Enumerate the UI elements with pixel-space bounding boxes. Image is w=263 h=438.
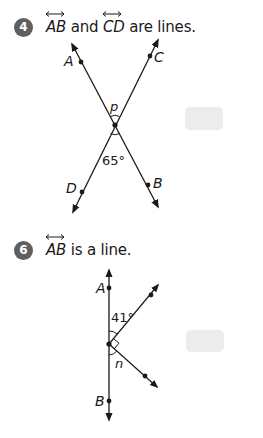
angle-n-arc	[109, 351, 117, 355]
lower-ray-dot	[143, 374, 148, 379]
angle-n-label: n	[115, 356, 123, 371]
angle-41-label: 41°	[111, 310, 134, 325]
intersecting-lines-figure: A C D B p 65°	[0, 0, 263, 220]
vertex-dot	[106, 341, 111, 346]
point-b-dot	[107, 399, 112, 404]
angle-p-arc	[111, 115, 120, 116]
right-angle-marker	[114, 339, 120, 349]
angle-65-arc	[111, 134, 120, 135]
angle-p-label: p	[109, 99, 118, 114]
point-a-dot	[107, 286, 112, 291]
problem-4: 4 AB and CD are lines.	[0, 0, 263, 220]
point-a-label: A	[95, 280, 106, 296]
upper-ray-dot	[149, 293, 154, 298]
point-c-label: C	[154, 49, 164, 65]
point-d-dot	[80, 190, 85, 195]
point-a-label: A	[63, 53, 74, 69]
answer-input-box[interactable]	[186, 330, 224, 352]
point-c-dot	[148, 54, 153, 59]
point-b-label: B	[95, 393, 105, 409]
angle-41-arc	[109, 331, 117, 334]
answer-input-box[interactable]	[185, 107, 223, 130]
point-a-dot	[79, 60, 84, 65]
problem-6: 6 AB is a line.	[0, 220, 263, 438]
angle-65-label: 65°	[102, 153, 125, 168]
point-b-label: B	[153, 175, 163, 191]
line-with-rays-figure: A B 41° n	[0, 220, 263, 438]
point-d-label: D	[66, 180, 77, 196]
point-b-dot	[146, 183, 151, 188]
intersection-dot	[112, 122, 117, 127]
